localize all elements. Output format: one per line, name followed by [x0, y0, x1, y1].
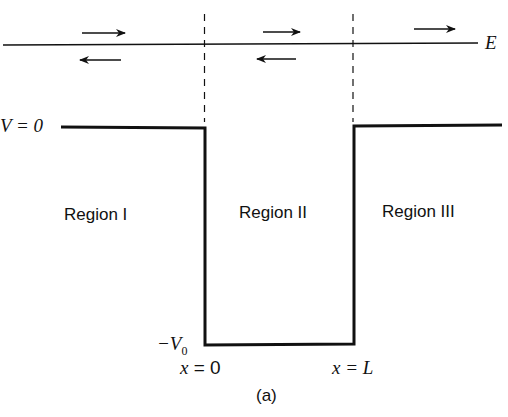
- x-zero-var: x: [180, 357, 188, 378]
- x-L-var: x: [332, 357, 340, 378]
- v-bottom-sub: 0: [181, 344, 187, 358]
- v-zero-label: V = 0: [0, 115, 43, 137]
- x-zero-label: x = 0: [180, 357, 221, 379]
- v-bottom-label: −V0: [157, 333, 187, 359]
- potential-curve: [61, 125, 502, 345]
- figure-caption: (a): [256, 386, 277, 406]
- x-zero-val: = 0: [194, 357, 221, 378]
- region-2-label: Region II: [239, 203, 307, 223]
- region-1-label: Region I: [64, 205, 127, 225]
- x-L-label: x = L: [332, 357, 373, 379]
- x-L-val: = L: [345, 357, 373, 378]
- v-zero-text: V = 0: [0, 115, 43, 136]
- region-3-label: Region III: [382, 202, 455, 222]
- v-bottom-main: −V: [157, 333, 181, 354]
- energy-line: [3, 43, 478, 45]
- energy-label: E: [485, 32, 497, 54]
